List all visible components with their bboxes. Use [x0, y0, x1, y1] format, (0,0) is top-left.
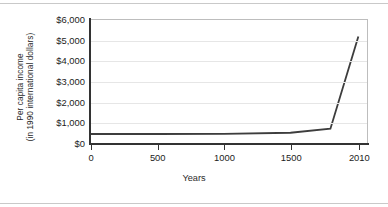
chart-figure: Per capita income (in 1990 international… [0, 0, 388, 207]
y-axis-tick-label: $3,000 [56, 76, 85, 87]
x-axis-tick-mark [158, 145, 159, 150]
series-polyline [91, 36, 358, 134]
x-axis-tick-label: 0 [88, 152, 93, 163]
x-axis-tick-mark [224, 145, 225, 150]
gridline-horizontal [91, 82, 367, 83]
top-divider [0, 3, 388, 4]
x-axis-tick-mark [91, 145, 92, 150]
x-axis-line [89, 143, 369, 145]
bottom-divider [0, 203, 388, 204]
y-axis-tick-label: $4,000 [56, 55, 85, 66]
gridline-horizontal [91, 123, 367, 124]
x-axis-tick-label: 2010 [349, 152, 370, 163]
y-axis-title-line-1: Per capita income [16, 53, 26, 120]
x-axis-tick-label: 500 [150, 152, 166, 163]
y-axis-tick-label: $6,000 [56, 14, 85, 25]
x-axis-tick-label: 1500 [281, 152, 302, 163]
y-axis-tick-label: $5,000 [56, 34, 85, 45]
gridline-horizontal [91, 41, 367, 42]
gridline-horizontal [91, 61, 367, 62]
y-axis-tick-label: $1,000 [56, 117, 85, 128]
plot-area [91, 19, 368, 143]
x-axis-tick-label: 1000 [214, 152, 235, 163]
x-axis-tick-mark [359, 145, 360, 150]
y-axis-title: Per capita income (in 1990 international… [11, 14, 41, 160]
x-axis-tick-mark [291, 145, 292, 150]
y-axis-title-line-2: (in 1990 international dollars) [26, 33, 36, 142]
y-axis-tick-label: $2,000 [56, 96, 85, 107]
y-axis-tick-label: $0 [75, 138, 85, 149]
y-axis-tick-labels: $6,000$5,000$4,000$3,000$2,000$1,000$0 [46, 13, 88, 143]
gridline-horizontal [91, 103, 367, 104]
x-axis-title: Years [0, 173, 388, 183]
